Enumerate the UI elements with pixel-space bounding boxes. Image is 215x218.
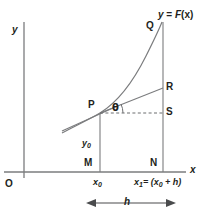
h-arrowhead-right: [166, 199, 176, 207]
x0-sub: 0: [98, 181, 102, 188]
point-label-q: Q: [146, 21, 154, 31]
y-axis-label: y: [12, 25, 18, 35]
h-arrowhead-left: [86, 199, 96, 207]
point-label-r: R: [166, 82, 173, 92]
origin-label: O: [5, 179, 13, 189]
angle-arc-theta: [121, 104, 123, 113]
angle-label-theta: θ: [112, 103, 119, 113]
diagram-canvas: [0, 0, 215, 218]
point-label-p: P: [88, 100, 95, 110]
x1-expr-tail: + h): [163, 177, 182, 187]
derivative-diagram: y x O y = F(x) Q R S P M N θ y0 x0 x1= (…: [0, 0, 215, 218]
function-curve: [62, 22, 162, 133]
function-label: y = F(x): [158, 10, 193, 20]
x0-tick-label: x0: [93, 178, 102, 187]
point-label-m: M: [84, 158, 92, 168]
function-label-eq: =: [164, 9, 175, 20]
x1-expr: = (x: [143, 177, 159, 187]
y0-sub: 0: [87, 142, 91, 149]
x1-tick-label: x1= (x0 + h): [134, 178, 181, 187]
secant-line-pr: [100, 88, 163, 113]
h-measure-label: h: [124, 197, 130, 207]
point-label-n: N: [150, 158, 157, 168]
y0-label: y0: [82, 139, 91, 148]
point-label-s: S: [166, 107, 173, 117]
x1-expr-sub: 0: [159, 181, 163, 188]
x1-sub: 1: [139, 181, 143, 188]
function-label-arg: (x): [181, 9, 193, 20]
x-axis-label: x: [190, 165, 196, 175]
